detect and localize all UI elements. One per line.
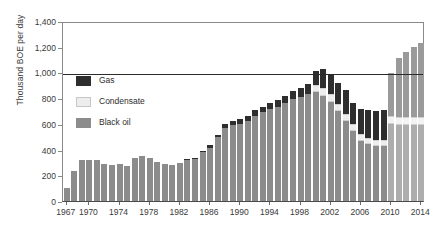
segment-gas [381, 110, 387, 140]
segment-black-oil [124, 166, 130, 201]
segment-condensate [388, 116, 394, 124]
segment-black-oil [101, 164, 107, 201]
segment-black-oil [109, 165, 115, 201]
segment-condensate [381, 140, 387, 146]
y-tick-label: 0 [20, 197, 56, 207]
y-tick-label: 1,400 [20, 17, 56, 27]
bar-1975 [124, 166, 130, 201]
bar-2000 [313, 71, 319, 201]
segment-black-oil [365, 144, 371, 201]
segment-black-oil [335, 111, 341, 201]
segment-gas [396, 58, 402, 117]
segment-gas [230, 121, 236, 125]
bar-1971 [94, 160, 100, 201]
segment-black-oil [222, 128, 228, 201]
x-tick-mark [119, 202, 120, 205]
bar-2008 [373, 111, 379, 201]
segment-gas [350, 103, 356, 125]
bar-1969 [79, 160, 85, 201]
segment-black-oil [298, 97, 304, 201]
segment-black-oil [260, 112, 266, 201]
bars-layer [63, 23, 423, 201]
segment-condensate [396, 117, 402, 125]
bar-2010 [388, 73, 394, 201]
bar-2004 [343, 90, 349, 201]
segment-black-oil [403, 125, 409, 201]
segment-black-oil [86, 160, 92, 201]
segment-condensate [335, 104, 341, 111]
segment-black-oil [154, 162, 160, 201]
x-tick-mark [179, 202, 180, 205]
segment-gas [411, 47, 417, 117]
segment-black-oil [71, 171, 77, 201]
segment-gas [222, 124, 228, 128]
segment-gas [260, 107, 266, 113]
x-tick-mark [269, 202, 270, 205]
bar-1970 [86, 160, 92, 201]
x-tick-label: 1990 [230, 207, 249, 217]
segment-black-oil [282, 103, 288, 201]
segment-black-oil [418, 125, 424, 201]
segment-black-oil [184, 159, 190, 201]
segment-gas [282, 96, 288, 103]
bar-1976 [132, 158, 138, 201]
segment-condensate [328, 94, 334, 102]
bar-2009 [381, 110, 387, 201]
x-tick-label: 1974 [109, 207, 128, 217]
segment-black-oil [388, 124, 394, 201]
bar-1986 [207, 145, 213, 201]
segment-black-oil [200, 152, 206, 201]
segment-black-oil [94, 160, 100, 201]
plot-area [62, 22, 424, 202]
bar-1983 [184, 159, 190, 201]
x-tick-label: 2010 [381, 207, 400, 217]
x-tick-mark [66, 202, 67, 205]
x-tick-mark [239, 202, 240, 205]
segment-gas [298, 88, 304, 97]
segment-black-oil [381, 146, 387, 201]
bar-1979 [154, 162, 160, 201]
y-tick-label: 400 [20, 146, 56, 156]
bar-1989 [230, 121, 236, 201]
x-tick-label: 1967 [56, 207, 75, 217]
x-tick-mark [149, 202, 150, 205]
segment-gas [418, 43, 424, 118]
y-tick-label: 1,200 [20, 43, 56, 53]
bar-1992 [252, 110, 258, 201]
segment-gas [267, 103, 273, 109]
y-tick-label: 200 [20, 171, 56, 181]
y-tick-label: 1,000 [20, 68, 56, 78]
bar-1987 [215, 135, 221, 201]
bar-2003 [335, 83, 341, 201]
segment-black-oil [358, 141, 364, 201]
bar-1981 [169, 165, 175, 201]
x-tick-label: 2002 [320, 207, 339, 217]
x-tick-label: 1978 [139, 207, 158, 217]
segment-black-oil [328, 102, 334, 201]
bar-1978 [147, 158, 153, 201]
segment-gas [373, 111, 379, 139]
legend-label: Gas [99, 75, 115, 85]
segment-condensate [350, 124, 356, 131]
y-tick-label: 600 [20, 120, 56, 130]
bar-1974 [117, 164, 123, 201]
segment-black-oil [64, 188, 70, 201]
segment-black-oil [117, 164, 123, 201]
segment-black-oil [147, 158, 153, 201]
x-tick-label: 1986 [200, 207, 219, 217]
bar-1999 [305, 84, 311, 201]
x-tick-mark [330, 202, 331, 205]
legend-label: Condensate [99, 96, 145, 106]
segment-black-oil [79, 160, 85, 201]
bar-1993 [260, 107, 266, 202]
segment-gas [403, 52, 409, 118]
x-tick-label: 2006 [350, 207, 369, 217]
segment-gas [358, 109, 364, 134]
bar-1984 [192, 158, 198, 201]
stacked-bar-chart: Thousand BOE per day 02004006008001,0001… [0, 0, 442, 232]
y-tick-label: 800 [20, 94, 56, 104]
segment-black-oil [343, 121, 349, 201]
segment-black-oil [396, 125, 402, 202]
segment-black-oil [215, 137, 221, 201]
legend-swatch-icon [76, 97, 91, 107]
